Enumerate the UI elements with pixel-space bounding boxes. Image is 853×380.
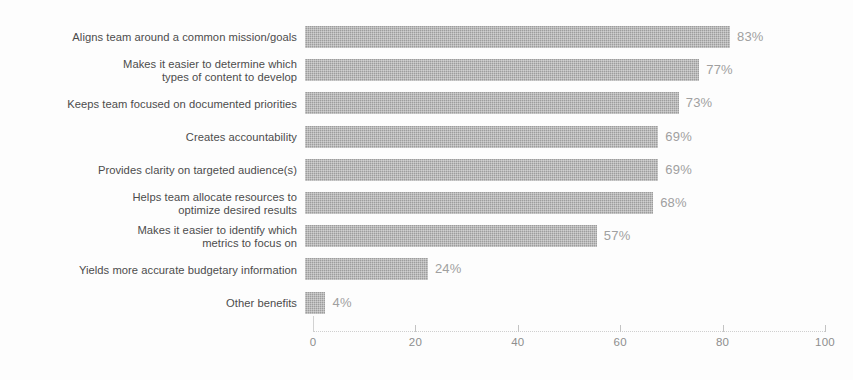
bar[interactable] xyxy=(305,192,653,214)
bar[interactable] xyxy=(305,59,699,81)
bar[interactable] xyxy=(305,159,658,181)
bar-value-label: 77% xyxy=(706,62,733,78)
bar[interactable] xyxy=(305,258,428,280)
bar-row: Provides clarity on targeted audience(s)… xyxy=(0,154,853,187)
bar-value-label: 83% xyxy=(737,29,764,45)
x-axis-tick xyxy=(825,325,826,332)
bar-track: 57% xyxy=(305,220,853,253)
axis-origin-cap xyxy=(313,316,314,332)
bar-value-label: 4% xyxy=(332,295,351,311)
bar-category-label: Makes it easier to identify which metric… xyxy=(0,224,305,249)
bar-row: Makes it easier to determine which types… xyxy=(0,54,853,87)
bar-track: 24% xyxy=(305,253,853,286)
bar-track: 68% xyxy=(305,187,853,220)
bar-category-label: Other benefits xyxy=(0,297,305,310)
x-axis-tick-label: 0 xyxy=(310,336,317,348)
bar-value-label: 24% xyxy=(435,261,462,277)
bar-row: Makes it easier to identify which metric… xyxy=(0,220,853,253)
bar-track: 69% xyxy=(305,154,853,187)
bar-row: Creates accountability69% xyxy=(0,121,853,154)
bar-row: Aligns team around a common mission/goal… xyxy=(0,21,853,54)
bar[interactable] xyxy=(305,225,597,247)
bar-category-label: Creates accountability xyxy=(0,131,305,144)
x-axis-tick-label: 20 xyxy=(409,336,422,348)
bar-category-label: Provides clarity on targeted audience(s) xyxy=(0,164,305,177)
x-axis-tick xyxy=(518,325,519,332)
bar-value-label: 57% xyxy=(604,228,631,244)
cropped-chart-title xyxy=(0,0,853,7)
bar-category-label: Yields more accurate budgetary informati… xyxy=(0,264,305,277)
bar-category-label: Makes it easier to determine which types… xyxy=(0,58,305,83)
bar-value-label: 69% xyxy=(665,162,692,178)
x-axis-tick-label: 100 xyxy=(815,336,835,348)
x-axis-tick xyxy=(620,325,621,332)
x-axis-tick xyxy=(415,325,416,332)
bar-track: 69% xyxy=(305,121,853,154)
bar-category-label: Helps team allocate resources to optimiz… xyxy=(0,191,305,216)
x-axis-tick-label: 60 xyxy=(614,336,627,348)
chart-plot-area: Aligns team around a common mission/goal… xyxy=(0,21,853,321)
bar-row: Yields more accurate budgetary informati… xyxy=(0,253,853,286)
bar-category-label: Aligns team around a common mission/goal… xyxy=(0,31,305,44)
bar[interactable] xyxy=(305,292,325,314)
bar-chart: Aligns team around a common mission/goal… xyxy=(0,0,853,380)
bar-track: 73% xyxy=(305,87,853,120)
bar[interactable] xyxy=(305,92,679,114)
bar-row: Other benefits4% xyxy=(0,287,853,320)
x-axis-tick-label: 80 xyxy=(716,336,729,348)
x-axis-line xyxy=(313,331,825,332)
bar-track: 4% xyxy=(305,287,853,320)
bar-track: 77% xyxy=(305,54,853,87)
bar-value-label: 69% xyxy=(665,129,692,145)
bar-category-label: Keeps team focused on documented priorit… xyxy=(0,98,305,111)
x-axis-tick xyxy=(723,325,724,332)
bar[interactable] xyxy=(305,26,730,48)
bar-value-label: 73% xyxy=(686,95,713,111)
bar-value-label: 68% xyxy=(660,195,687,211)
bar-track: 83% xyxy=(305,21,853,54)
x-axis-tick-label: 40 xyxy=(511,336,524,348)
bar-row: Keeps team focused on documented priorit… xyxy=(0,87,853,120)
bar[interactable] xyxy=(305,126,658,148)
bar-row: Helps team allocate resources to optimiz… xyxy=(0,187,853,220)
